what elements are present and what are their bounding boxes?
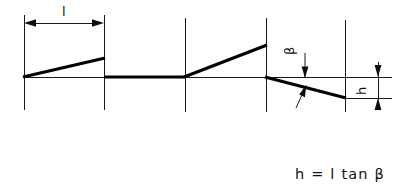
engineering-drawing-canvas: l β h h = l tan β <box>0 0 399 188</box>
formula-text: h = l tan β <box>295 166 385 182</box>
technical-diagram: l β h h = l tan β <box>0 0 399 188</box>
angle-label: β <box>282 46 297 55</box>
height-label: h <box>354 86 369 95</box>
canvas-background <box>0 0 399 188</box>
length-label: l <box>62 4 66 19</box>
